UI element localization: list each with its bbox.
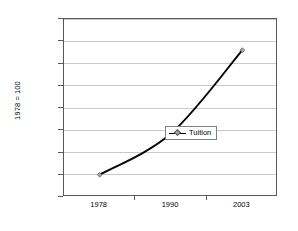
y-axis-title: 1978 = 100 <box>13 56 22 146</box>
x-axis-tick-mark <box>134 196 135 200</box>
tuition-index-line-chart: 1978 = 100 0100200300400500600700800 197… <box>0 0 298 231</box>
series-layer <box>64 19 278 197</box>
legend-marker-icon <box>169 129 186 137</box>
x-axis-tick-label: 1978 <box>71 201 127 209</box>
x-axis-tick-label: 2003 <box>213 201 269 209</box>
series-line-tuition <box>100 50 243 175</box>
x-axis-tick-mark <box>206 196 207 200</box>
legend: Tuition <box>165 126 217 140</box>
plot-area <box>63 18 277 196</box>
y-axis-tick-mark <box>58 196 63 197</box>
x-axis-tick-label: 1990 <box>142 201 198 209</box>
legend-label-tuition: Tuition <box>189 129 211 137</box>
